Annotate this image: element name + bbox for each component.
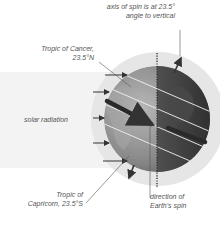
earth-tilt-diagram: axis of spin is at 23.5° angle to vertic…	[0, 0, 220, 225]
spin-direction-line1: direction of	[150, 193, 186, 202]
tropic-capricorn-line1: Tropic of	[20, 191, 83, 200]
solar-radiation-label: solar radiation	[24, 116, 68, 125]
tropic-capricorn-line2: Capricorn, 23.5°S	[20, 200, 83, 209]
spin-direction-label: direction of Earth's spin	[150, 193, 186, 210]
axis-label-line1: axis of spin is at 23.5°	[105, 3, 175, 12]
tropic-cancer-line2: 23.5°N	[30, 54, 94, 63]
axis-label: axis of spin is at 23.5° angle to vertic…	[105, 3, 175, 20]
tropic-capricorn-label: Tropic of Capricorn, 23.5°S	[20, 191, 83, 208]
axis-label-line2: angle to vertical	[105, 12, 175, 21]
tropic-cancer-line1: Tropic of Cancer,	[30, 45, 94, 54]
spin-direction-line2: Earth's spin	[150, 202, 186, 211]
tropic-cancer-label: Tropic of Cancer, 23.5°N	[30, 45, 94, 62]
